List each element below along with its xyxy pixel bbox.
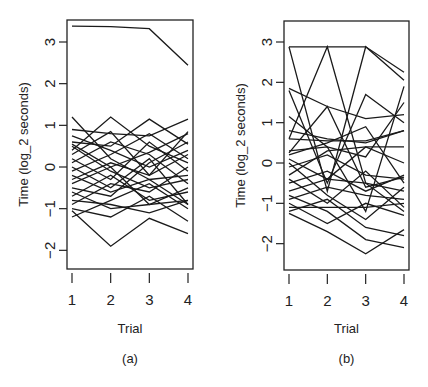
series-line-s16 [289,187,404,199]
x-axis-title: Trial [118,321,143,336]
x-tick-label: 1 [68,291,76,308]
x-tick-label: 3 [145,291,153,308]
y-tick-label: −2 [41,242,58,259]
y-tick-label: −1 [41,200,58,217]
y-tick-label: 3 [258,38,275,46]
y-tick-label: 2 [258,78,275,86]
y-axis-title: Time (log_2 seconds) [233,83,248,208]
series-line-s1 [72,26,188,65]
x-axis: 1234 [68,273,192,308]
x-tick-label: 3 [361,292,369,309]
y-tick-label: 0 [258,159,275,167]
series-line-s1 [289,47,404,73]
panel-label: (b) [339,351,355,366]
x-axis: 1234 [285,274,408,309]
chart-figure: 3210−1−21234TrialTime (log_2 seconds)(a)… [0,0,428,387]
y-tick-label: 1 [258,118,275,126]
series-lines [289,47,404,254]
y-tick-label: 3 [41,38,58,46]
x-tick-label: 1 [285,292,293,309]
series-line-s3 [72,117,188,163]
x-axis-title: Trial [334,321,359,336]
x-tick-label: 4 [400,292,408,309]
series-line-s11 [72,146,188,188]
x-tick-label: 4 [184,291,192,308]
series-lines [72,26,188,246]
panel-b: 3210−1−21234TrialTime (log_2 seconds)(b) [233,21,409,366]
y-tick-label: 1 [41,121,58,129]
y-axis: 3210−1−2 [258,38,284,252]
panel-label: (a) [122,351,138,366]
series-line-s20 [72,211,188,246]
x-tick-label: 2 [106,291,114,308]
y-tick-label: 0 [41,163,58,171]
y-tick-label: 2 [41,79,58,87]
series-line-s8 [72,134,188,172]
y-tick-label: −2 [258,235,275,252]
panel-a: 3210−1−21234TrialTime (log_2 seconds)(a) [16,20,193,366]
y-axis-title: Time (log_2 seconds) [16,82,31,207]
x-tick-label: 2 [323,292,331,309]
y-axis: 3210−1−2 [41,38,67,259]
series-line-s19 [289,213,404,253]
y-tick-label: −1 [258,195,275,212]
series-line-s2 [289,47,404,191]
